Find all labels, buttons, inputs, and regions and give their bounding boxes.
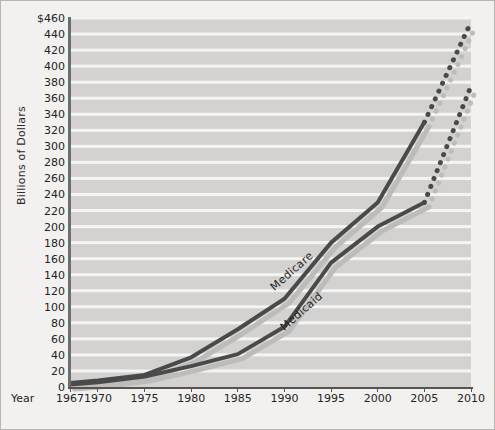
y-tick-label: 100 [44, 300, 65, 313]
gridline [70, 321, 471, 324]
series-line-medicaid-projected [424, 86, 471, 202]
gridline [70, 129, 471, 132]
series-shadow [75, 127, 429, 388]
gridline [70, 257, 471, 260]
x-tick-mark [377, 387, 378, 392]
x-tick-mark [471, 387, 472, 392]
x-tick-mark [237, 387, 238, 392]
gridline [70, 225, 471, 228]
gridline [70, 17, 471, 20]
series-shadow [429, 91, 476, 207]
y-tick-label: 40 [51, 348, 65, 361]
series-shadow [75, 207, 429, 389]
x-tick-mark [424, 387, 425, 392]
y-tick-label: 360 [44, 92, 65, 105]
chart-figure: Billions of Dollars 02040608010012014016… [0, 0, 495, 430]
gridline [70, 49, 471, 52]
plot-area [70, 18, 471, 387]
gridlines [70, 17, 471, 373]
gridline [70, 81, 471, 84]
gridline [70, 353, 471, 356]
gridline [70, 113, 471, 116]
gridline [70, 369, 471, 372]
y-tick-label: 20 [51, 364, 65, 377]
x-tick-label: 1980 [177, 392, 205, 405]
gridline [70, 193, 471, 196]
gridline [70, 273, 471, 276]
y-tick-label: 300 [44, 140, 65, 153]
y-tick-label: 380 [44, 76, 65, 89]
y-tick-label: 400 [44, 60, 65, 73]
x-tick-label: 1990 [270, 392, 298, 405]
gridline [70, 241, 471, 244]
y-tick-label: 280 [44, 156, 65, 169]
y-tick-label: 60 [51, 332, 65, 345]
y-tick-label: 160 [44, 252, 65, 265]
chart-canvas [70, 18, 471, 387]
y-tick-label: 440 [44, 28, 65, 41]
y-tick-label: 340 [44, 108, 65, 121]
y-tick-label: 220 [44, 204, 65, 217]
x-tick-mark [284, 387, 285, 392]
y-tick-label: 180 [44, 236, 65, 249]
x-axis-line [68, 387, 473, 389]
gridline [70, 65, 471, 68]
series-line-layer [70, 22, 471, 385]
gridline [70, 289, 471, 292]
gridline [70, 33, 471, 36]
x-tick-mark [70, 387, 71, 392]
y-tick-label: 80 [51, 316, 65, 329]
y-tick-label: 420 [44, 44, 65, 57]
x-axis-title: Year [11, 392, 34, 405]
gridline [70, 97, 471, 100]
y-axis-line [68, 17, 71, 388]
y-tick-label: 200 [44, 220, 65, 233]
y-tick-label: 120 [44, 284, 65, 297]
x-tick-mark [144, 387, 145, 392]
x-tick-mark [191, 387, 192, 392]
x-tick-mark [331, 387, 332, 392]
y-tick-label: 240 [44, 188, 65, 201]
y-tick-label: 140 [44, 268, 65, 281]
y-tick-label: 320 [44, 124, 65, 137]
x-tick-label: 2010 [457, 392, 485, 405]
x-tick-mark [97, 387, 98, 392]
y-tick-label: $460 [37, 12, 65, 25]
x-tick-label: 1975 [131, 392, 159, 405]
y-axis-tick-labels: 0204060801001201401601802002202402602803… [1, 1, 68, 430]
x-tick-label: 1970 [84, 392, 112, 405]
x-tick-label: 2005 [410, 392, 438, 405]
gridline [70, 177, 471, 180]
x-tick-label: 1967 [56, 392, 84, 405]
x-tick-label: 2000 [364, 392, 392, 405]
y-tick-label: 260 [44, 172, 65, 185]
x-tick-label: 1995 [317, 392, 345, 405]
x-tick-label: 1985 [224, 392, 252, 405]
